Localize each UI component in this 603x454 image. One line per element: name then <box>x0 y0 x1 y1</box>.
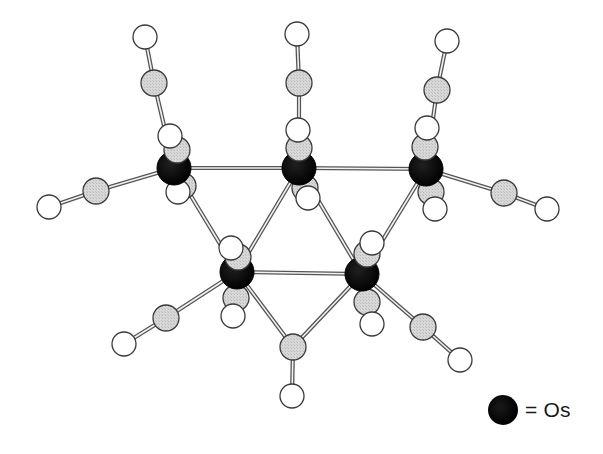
oxygen-atom-O1l <box>37 195 61 219</box>
oxygen-atom-O3a <box>435 29 459 53</box>
legend: = Os <box>488 395 571 425</box>
carbon-atom-Cb <box>280 334 306 360</box>
oxygen-atom-O3d <box>423 197 447 221</box>
carbon-atom-C1a <box>141 70 167 96</box>
oxygen-atom-O1a <box>133 25 157 49</box>
carbon-atom-C1l <box>83 178 109 204</box>
oxygen-atom-O4f <box>219 236 243 260</box>
carbon-atom-C4l <box>153 305 179 331</box>
os-atom-legend-icon <box>488 395 518 425</box>
oxygen-atom-O2a <box>285 22 309 46</box>
carbon-atom-C2a <box>286 70 312 96</box>
oxygen-atom-Ob <box>280 384 304 408</box>
molecular-structure-diagram <box>0 0 603 454</box>
oxygen-atom-O4l <box>112 332 136 356</box>
oxygen-atom-O5r <box>448 348 472 372</box>
carbon-atom-C5r <box>410 314 436 340</box>
oxygen-atom-O1f <box>158 124 182 148</box>
atom-layer <box>37 22 559 408</box>
oxygen-atom-O4d <box>221 304 245 328</box>
carbon-atom-C3r <box>491 180 517 206</box>
oxygen-atom-O2f <box>286 118 310 142</box>
oxygen-atom-O3r <box>535 197 559 221</box>
oxygen-atom-O3f <box>415 116 439 140</box>
carbon-atom-C5d <box>354 289 380 315</box>
oxygen-atom-O2d <box>296 186 320 210</box>
carbon-atom-C3a <box>424 77 450 103</box>
bond-highlight <box>299 168 426 169</box>
oxygen-atom-O5d <box>360 312 384 336</box>
oxygen-atom-O5f <box>360 231 384 255</box>
legend-label: = Os <box>525 398 571 422</box>
